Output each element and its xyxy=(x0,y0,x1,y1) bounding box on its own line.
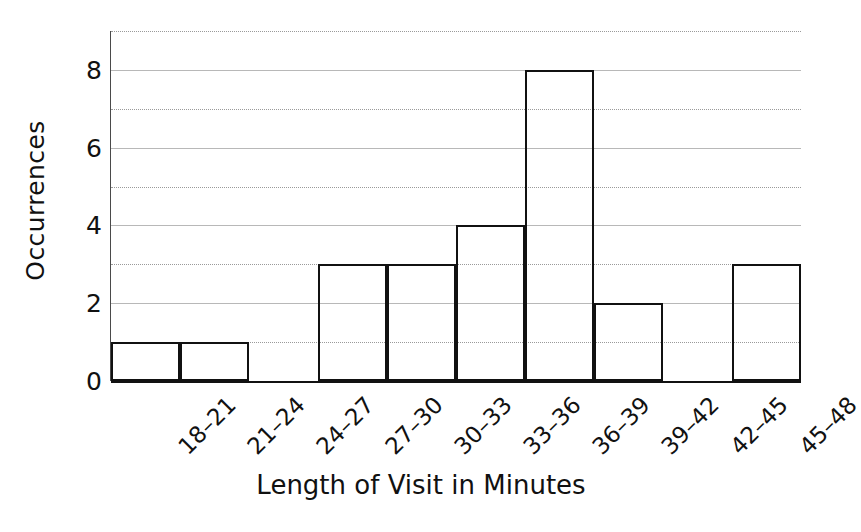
x-tick-label: 30–33 xyxy=(450,393,516,459)
bar xyxy=(456,225,525,381)
bar xyxy=(525,70,594,381)
x-tick-label: 24–27 xyxy=(312,393,378,459)
x-axis-title-text: Length of Visit in Minutes xyxy=(256,470,585,500)
y-tick-label: 8 xyxy=(62,57,102,82)
y-axis-title-text: Occurrences xyxy=(21,120,50,280)
y-axis-title: Occurrences xyxy=(0,0,70,400)
x-tick-label: 39–42 xyxy=(657,393,723,459)
x-tick-label: 33–36 xyxy=(519,393,585,459)
bar xyxy=(111,342,180,381)
x-axis-title: Length of Visit in Minutes xyxy=(0,470,842,500)
y-tick-label: 0 xyxy=(62,369,102,394)
y-tick-label: 2 xyxy=(62,291,102,316)
x-tick-label: 27–30 xyxy=(381,393,447,459)
bar xyxy=(318,264,387,381)
x-tick-label: 18–21 xyxy=(174,393,240,459)
bar xyxy=(387,264,456,381)
x-tick-label: 36–39 xyxy=(588,393,654,459)
y-tick-label: 6 xyxy=(62,135,102,160)
bar xyxy=(732,264,801,381)
bar xyxy=(594,303,663,381)
x-tick-label: 42–45 xyxy=(726,393,792,459)
x-axis-ticks: 18–2121–2424–2727–3030–3333–3636–3939–42… xyxy=(111,381,801,471)
bars-group xyxy=(111,31,801,381)
x-tick-label: 21–24 xyxy=(243,393,309,459)
x-tick-label: 45–48 xyxy=(795,393,861,459)
y-axis-ticks: 02468 xyxy=(58,0,102,532)
y-tick-label: 4 xyxy=(62,213,102,238)
bar xyxy=(180,342,249,381)
